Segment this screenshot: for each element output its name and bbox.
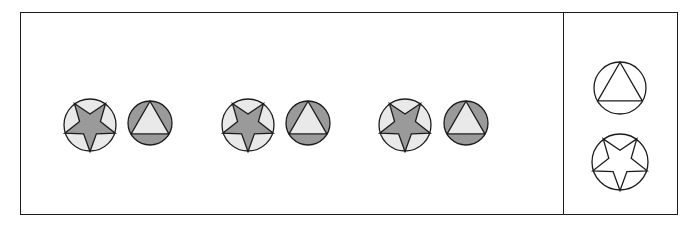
- triangle-in-circle-dark: [441, 98, 491, 148]
- triangle-in-circle-dark: [125, 98, 175, 148]
- options-panel: [565, 14, 676, 213]
- puzzle-root: [0, 0, 693, 230]
- sequence-panel: [22, 14, 563, 213]
- panel-divider: [563, 12, 564, 215]
- star-in-circle-light: [376, 96, 434, 154]
- triangle-in-circle-dark: [283, 98, 333, 148]
- star-in-circle-light: [219, 96, 277, 154]
- star-in-circle-light: [61, 96, 119, 154]
- option-triangle-in-circle-outline[interactable]: [591, 59, 649, 117]
- option-star-in-circle-outline[interactable]: [589, 131, 651, 193]
